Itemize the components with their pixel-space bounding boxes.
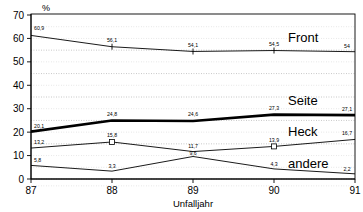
seite-label-89: 24,6	[188, 111, 198, 117]
series-label-heck: Heck	[288, 124, 318, 139]
front-label-88: 56,1	[107, 37, 117, 43]
x-tick-label-90: 90	[268, 185, 280, 196]
seite-label-91: 27,1	[342, 106, 352, 112]
seite-label-88: 24,8	[107, 111, 117, 117]
y-tick-label-70: 70	[13, 10, 25, 21]
seite-label-87: 20,1	[34, 123, 44, 129]
andere-label-91: 2,2	[343, 166, 350, 172]
y-axis-unit-label: %	[42, 3, 50, 13]
y-tick-label-30: 30	[13, 103, 25, 114]
front-label-87: 60,9	[34, 25, 44, 31]
andere-label-88: 3,3	[108, 163, 115, 169]
front-label-89: 54,1	[188, 42, 198, 48]
y-tick-label-20: 20	[13, 127, 25, 138]
y-tick-label-0: 0	[18, 174, 24, 185]
heck-label-87: 13,2	[34, 139, 44, 145]
x-axis-title: Unfalljahr	[173, 198, 213, 209]
heck-label-91: 16,7	[342, 130, 352, 136]
x-tick-label-88: 88	[106, 185, 118, 196]
andere-label-87: 5,8	[34, 157, 41, 163]
series-label-front: Front	[288, 30, 319, 45]
series-heck-marker-88	[110, 140, 115, 145]
heck-label-89: 11,7	[188, 143, 198, 149]
seite-label-90: 27,3	[269, 105, 279, 111]
series-heck-marker-90	[272, 144, 277, 149]
x-tick-marks	[31, 179, 355, 183]
y-tick-label-10: 10	[13, 150, 25, 161]
y-tick-label-60: 60	[13, 33, 25, 44]
x-tick-label-91: 91	[349, 185, 361, 196]
y-tick-label-50: 50	[13, 56, 25, 67]
chart-canvas: % 70 60 50 40 30 20 10 0 87 88 89 90 91 …	[0, 0, 363, 212]
y-tick-label-40: 40	[13, 80, 25, 91]
line-chart: % 70 60 50 40 30 20 10 0 87 88 89 90 91 …	[0, 0, 363, 212]
andere-label-90: 4,3	[270, 161, 277, 167]
series-label-seite: Seite	[288, 93, 318, 108]
front-label-91: 54	[344, 43, 350, 49]
heck-label-90: 13,9	[269, 137, 279, 143]
x-tick-label-89: 89	[187, 185, 199, 196]
front-label-90: 54,5	[269, 41, 279, 47]
series-label-andere: andere	[288, 156, 328, 171]
y-tick-marks	[27, 15, 31, 179]
heck-label-88: 15,8	[107, 132, 117, 138]
andere-label-89: 9,6	[189, 150, 196, 156]
x-tick-label-87: 87	[25, 185, 37, 196]
